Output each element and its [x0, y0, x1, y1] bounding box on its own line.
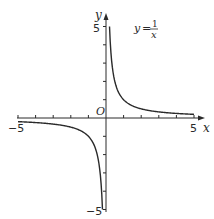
function-equals: = — [142, 22, 151, 35]
hyperbola-chart: y x O 5 −5 −5 5 y = 1 x — [0, 0, 214, 219]
origin-label: O — [96, 105, 105, 118]
y-tick-label-neg5: −5 — [86, 205, 102, 218]
x-axis-arrow-icon — [198, 116, 205, 121]
x-axis-label: x — [203, 121, 210, 135]
y-axis-label: y — [94, 8, 102, 22]
function-denominator: x — [151, 29, 157, 40]
x-tick-label-5: 5 — [190, 122, 197, 135]
y-axis-arrow-icon — [104, 13, 109, 20]
y-tick-label-5: 5 — [93, 22, 100, 35]
x-axis — [17, 115, 205, 121]
function-numerator: 1 — [152, 19, 158, 29]
function-label: y = 1 x — [133, 19, 158, 40]
x-tick-label-neg5: −5 — [8, 122, 24, 135]
function-lhs: y — [133, 22, 141, 35]
curve-negative-branch — [18, 122, 102, 210]
